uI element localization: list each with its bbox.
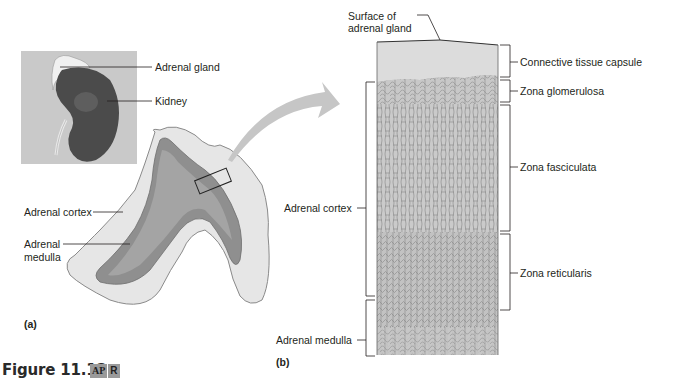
magnify-arrow-icon xyxy=(228,82,340,162)
label-adrenal-medulla-a-line2: medulla xyxy=(24,251,61,263)
label-zona-reticularis: Zona reticularis xyxy=(520,267,592,279)
apr-badge-ap: AP xyxy=(90,364,107,378)
label-connective-tissue-capsule: Connective tissue capsule xyxy=(520,56,642,68)
apr-badge: AP R xyxy=(90,364,120,378)
label-adrenal-cortex-a: Adrenal cortex xyxy=(24,206,92,218)
label-zona-glomerulosa: Zona glomerulosa xyxy=(520,85,604,97)
kidney-inset xyxy=(21,51,137,164)
tissue-micrograph xyxy=(377,40,498,355)
label-adrenal-gland: Adrenal gland xyxy=(155,61,220,73)
label-surface-line1: Surface of xyxy=(348,10,396,22)
label-adrenal-medulla-b: Adrenal medulla xyxy=(276,334,352,346)
panel-b-letter: (b) xyxy=(276,356,289,368)
label-zona-fasciculata: Zona fasciculata xyxy=(520,161,596,173)
label-kidney: Kidney xyxy=(155,95,187,107)
label-adrenal-medulla-a-line1: Adrenal xyxy=(24,238,60,250)
apr-badge-r: R xyxy=(108,364,119,378)
label-surface-line2: adrenal gland xyxy=(348,22,412,34)
label-adrenal-cortex-b: Adrenal cortex xyxy=(284,202,352,214)
panel-a-letter: (a) xyxy=(24,318,37,330)
